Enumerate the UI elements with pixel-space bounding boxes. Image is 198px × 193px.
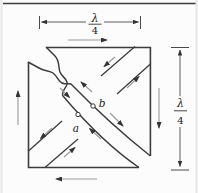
current-arrow-bottom-left-corner-down-left	[41, 128, 53, 139]
slot-upper-edge	[28, 62, 150, 156]
terminal-a-label: a	[73, 122, 79, 134]
top-right-corner-line-inner	[117, 64, 150, 94]
current-arrow-top-right-corner-up-right	[127, 77, 139, 89]
current-arrows	[18, 40, 159, 179]
top-dimension: λ 4	[40, 12, 141, 37]
right-dimension: λ 4	[171, 48, 189, 171]
bottom-left-corner-line-inner	[29, 121, 63, 151]
current-arrow-upper-slot-up-left	[81, 82, 92, 92]
slot-sheet-figure: λ 4 λ 4	[0, 0, 198, 193]
terminal-b-label: b	[99, 97, 106, 109]
top-dimension-numerator: λ	[91, 12, 99, 25]
terminal-a-marker	[76, 112, 80, 116]
terminal-b-marker	[91, 104, 95, 108]
right-dimension-denominator: 4	[177, 115, 183, 126]
right-dimension-numerator: λ	[176, 97, 184, 110]
diagonal-slot	[28, 47, 150, 168]
top-right-corner-line-outer	[101, 47, 135, 77]
corner-current-lines	[29, 47, 151, 168]
bottom-left-corner-line-outer	[45, 139, 78, 168]
top-dimension-denominator: 4	[92, 25, 98, 36]
sheet-outline	[29, 48, 151, 168]
sheet-bottom-left-edges	[29, 62, 140, 168]
